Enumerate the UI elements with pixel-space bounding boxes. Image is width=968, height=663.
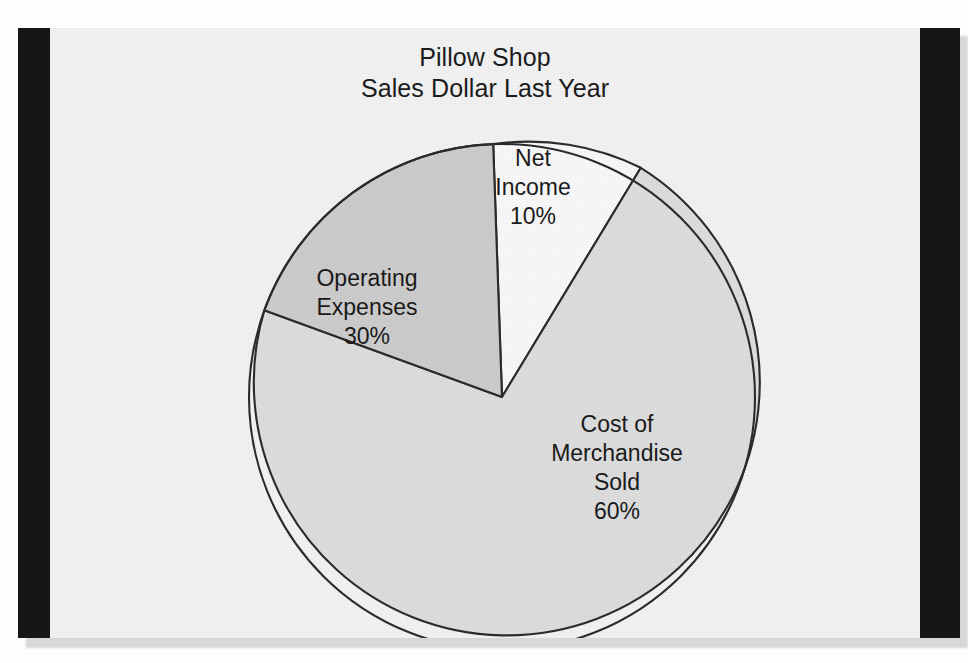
figure-frame: Pillow Shop Sales Dollar Last Year Net I…	[18, 28, 960, 638]
chart-panel: Pillow Shop Sales Dollar Last Year Net I…	[50, 28, 920, 638]
pie-chart	[50, 28, 920, 638]
binding-bar-left	[18, 28, 50, 638]
binding-bar-right	[920, 28, 960, 638]
scanned-page: Pillow Shop Sales Dollar Last Year Net I…	[0, 0, 968, 663]
